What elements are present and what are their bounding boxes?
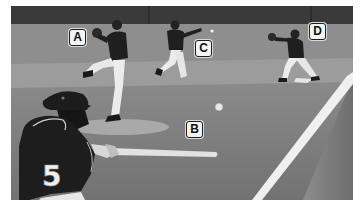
- batter-jersey-number: 5: [42, 160, 61, 193]
- label-c: C: [195, 40, 212, 57]
- pitched-ball: [215, 103, 222, 110]
- label-b: B: [186, 121, 203, 138]
- thrown-ball: [210, 29, 213, 32]
- label-d: D: [309, 23, 326, 40]
- outfield-wall: [11, 6, 353, 24]
- label-a: A: [69, 29, 86, 46]
- field-scene: 5: [11, 6, 353, 200]
- baseball-photo: 5 A B C D: [11, 6, 353, 200]
